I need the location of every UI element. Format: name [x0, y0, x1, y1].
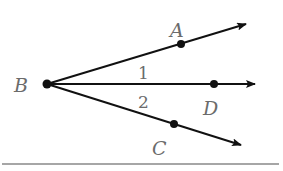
label-d: D — [202, 97, 218, 119]
point-d — [210, 80, 218, 88]
angle-label-2: 2 — [138, 92, 149, 112]
geometry-diagram: B A D C 1 2 — [0, 0, 283, 171]
label-a: A — [168, 19, 184, 41]
point-a — [177, 40, 185, 48]
point-c — [170, 120, 178, 128]
label-b: B — [13, 74, 28, 96]
angle-label-1: 1 — [138, 63, 149, 83]
point-b — [43, 80, 52, 89]
label-c: C — [152, 137, 167, 159]
